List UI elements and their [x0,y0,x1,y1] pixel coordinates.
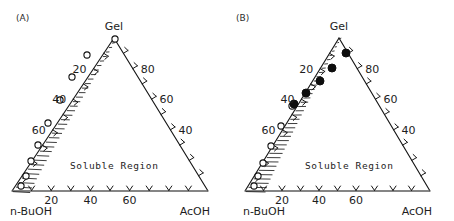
tick-barb [284,133,287,136]
data-point-open-2 [28,158,34,164]
tick-mark [385,112,390,115]
tick-mark [166,186,169,190]
tick-mark [356,186,359,190]
tick-label-bottom-60: 60 [123,194,137,207]
panel-b: (B) 204060204060806040Geln-BuOHAcOHSolub… [227,0,454,221]
hatch-line [37,156,49,157]
tick-label-left-40: 40 [280,93,294,106]
tick-right-20 [189,154,194,160]
tick-mark [357,66,362,69]
tick-left-20 [94,69,98,75]
tick-left-10 [330,53,335,59]
tick-barb [422,170,425,173]
tick-mark [394,127,399,130]
tick-left-30 [83,84,87,90]
vertex-label-n-buoh: n-BuOH [10,205,52,218]
tick-bottom-20 [279,186,285,190]
data-point-open-0 [251,183,257,189]
tick-mark [123,50,128,53]
tick-mark [107,186,110,190]
tick-barb [44,148,47,151]
tick-mark [127,186,130,190]
tick-mark [68,186,71,190]
tick-barb [172,124,175,127]
tick-mark [282,186,285,190]
data-point-open-7 [84,52,90,58]
tick-barb [162,109,165,112]
data-point-open-3 [35,142,41,148]
tick-label-right-80: 80 [141,63,155,76]
tick-mark [142,81,147,84]
tick-right-70 [366,78,371,84]
tick-mark [320,69,325,72]
tick-left-40 [73,99,77,105]
tick-bottom-20 [48,186,54,190]
data-point-open-0 [18,183,24,189]
tick-right-80 [357,63,362,69]
tick-right-60 [375,93,380,99]
tick-mark [180,142,185,145]
tick-label-left-40: 40 [52,93,66,106]
tick-mark [53,130,57,133]
tick-bottom-60 [127,186,133,190]
data-point-solid-3 [328,64,336,72]
data-point-solid-2 [316,77,324,85]
tick-barb [125,47,128,50]
tick-left-70 [43,145,47,151]
tick-label-left-60: 60 [32,124,46,137]
data-point-open-1 [255,173,261,179]
tick-bottom-50 [107,186,113,190]
tick-bottom-80 [166,186,172,190]
tick-barb [413,154,416,157]
tick-mark [421,173,426,176]
tick-barb [377,93,380,96]
data-point-open-4 [45,120,51,126]
tick-label-right-60: 60 [383,93,397,106]
tick-mark [261,186,264,190]
data-point-open-3 [268,143,274,149]
tick-right-10 [421,170,426,176]
tick-right-70 [142,78,147,84]
tick-mark [87,186,90,190]
hatch-line [34,160,47,161]
tick-mark [409,186,412,190]
tick-barb [395,124,398,127]
tick-mark [412,158,417,161]
data-point-open-1 [23,173,29,179]
panel-a-plot: 204060204060806040Geln-BuOHAcOHSoluble R… [0,0,227,221]
tick-mark [83,84,87,87]
tick-barb [74,102,77,105]
tick-mark [51,186,54,190]
soluble-region-label: Soluble Region [305,160,393,171]
tick-right-90 [123,47,128,53]
tick-barb [190,154,193,157]
tick-label-left-60: 60 [262,124,276,137]
tick-bottom-10 [261,186,267,190]
tick-bottom-40 [87,186,93,190]
tick-label-bottom-40: 40 [83,194,97,207]
tick-bottom-70 [372,186,378,190]
tick-mark [104,53,108,56]
tick-mark [375,96,380,99]
data-points-solid [290,49,350,108]
tick-mark [301,99,306,102]
vertex-label-gel: Gel [105,20,123,33]
hatch-line [13,192,30,193]
data-point-solid-4 [342,49,350,57]
tick-bottom-60 [353,186,359,190]
soluble-region-label: Soluble Region [70,160,158,171]
tick-mark [264,186,267,190]
tick-mark [146,186,149,190]
tick-mark [133,66,138,69]
vertex-label-acoh: AcOH [180,205,210,218]
tick-barb [368,78,371,81]
tick-label-right-80: 80 [365,63,379,76]
tick-mark [48,186,51,190]
data-point-open-2 [260,160,266,166]
data-point-solid-1 [302,89,310,97]
tick-bottom-90 [185,186,191,190]
tick-label-bottom-60: 60 [349,194,363,207]
tick-left-20 [320,69,325,75]
tick-right-50 [385,109,390,115]
tick-bottom-70 [146,186,152,190]
